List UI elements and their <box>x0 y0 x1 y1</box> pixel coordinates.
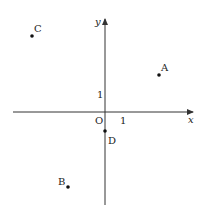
x-axis-label: x <box>188 114 194 125</box>
point-c <box>30 34 34 38</box>
point-a-label: A <box>160 62 169 73</box>
point-c-label: C <box>34 23 42 34</box>
origin-label: O <box>95 115 103 126</box>
point-d <box>103 129 107 133</box>
coordinate-plane: x y O 1 1 A B C D <box>0 0 209 215</box>
point-a <box>157 73 161 77</box>
unit-y-label: 1 <box>97 89 103 100</box>
unit-x-label: 1 <box>120 115 126 126</box>
point-b-label: B <box>58 176 65 187</box>
point-b <box>66 185 70 189</box>
y-axis-label: y <box>94 16 101 27</box>
point-d-label: D <box>108 135 116 146</box>
